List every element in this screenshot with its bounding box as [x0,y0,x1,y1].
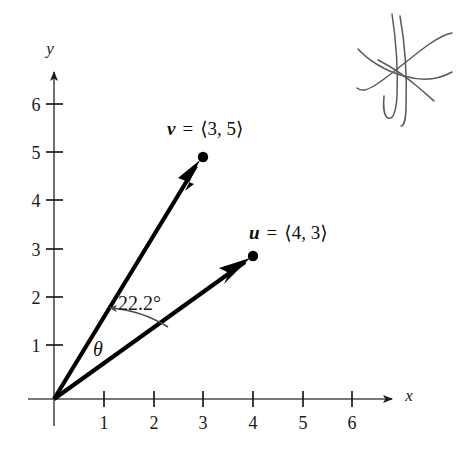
vector-u-arrowhead [219,258,250,284]
x-axis-label: x [404,386,413,405]
y-axis-label: y [44,39,54,58]
vector-u [54,251,258,399]
vector-u-shaft [54,262,245,399]
x-tick-label-5: 5 [299,413,308,433]
theta-symbol-label: θ [93,338,103,360]
x-tick-label-2: 2 [150,413,159,433]
vector-v-components: ⟨3, 5⟩ [200,118,243,139]
vector-diagram-figure: 1 2 3 4 5 6 1 2 3 4 5 6 x y [0,0,461,457]
angle-value-label: 22.2° [118,292,161,314]
vector-v-label: v=⟨3, 5⟩ [167,118,243,139]
y-tick-label-4: 4 [32,191,41,211]
handwritten-scribble-annotation [357,14,452,126]
vector-v [54,152,208,399]
vector-v-shaft [54,166,196,399]
vector-u-label: u=⟨4, 3⟩ [249,222,328,243]
vector-u-name: u [249,222,260,243]
diagram-canvas: 1 2 3 4 5 6 1 2 3 4 5 6 x y [0,0,461,457]
x-tick-label-6: 6 [348,413,357,433]
x-tick-label-1: 1 [100,413,109,433]
x-tick-label-4: 4 [249,413,258,433]
y-tick-label-2: 2 [32,288,41,308]
y-tick-label-6: 6 [32,95,41,115]
y-tick-label-3: 3 [32,240,41,260]
vector-v-name: v [167,118,176,139]
vector-u-equals: = [267,222,278,243]
vector-v-equals: = [182,118,193,139]
vector-u-endpoint-dot [248,251,258,261]
scribble-stroke-diagonal-down [357,33,452,90]
scribble-stroke-vertical-right [400,16,406,126]
y-tick-label-1: 1 [32,336,41,356]
vector-u-components: ⟨4, 3⟩ [284,222,327,243]
vector-v-endpoint-dot [198,152,208,162]
x-tick-label-3: 3 [199,413,208,433]
y-tick-label-5: 5 [32,143,41,163]
